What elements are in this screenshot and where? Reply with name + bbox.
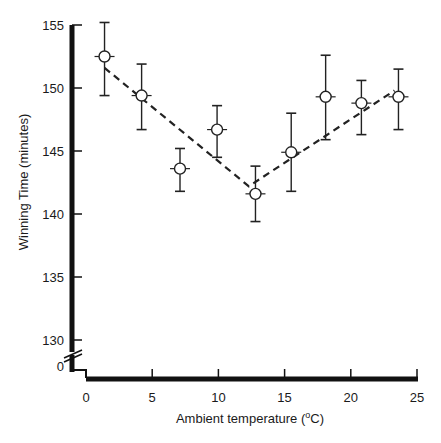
data-point	[170, 148, 190, 191]
x-tick-label: 0	[82, 390, 89, 405]
data-point	[388, 69, 408, 129]
chart: 130135140145150155 0 0510152025 Winning …	[0, 0, 441, 443]
y-tick-label: 130	[42, 333, 64, 348]
x-tick-label: 15	[277, 390, 291, 405]
data-point	[207, 106, 227, 158]
data-point	[95, 22, 115, 95]
data-point	[132, 64, 152, 130]
data-point	[316, 55, 336, 139]
trend-line	[105, 68, 395, 186]
y-tick-label: 155	[42, 18, 64, 33]
y-axis-title: Winning Time (minutes)	[16, 114, 31, 251]
x-tick-label: 20	[344, 390, 358, 405]
data-point	[245, 166, 265, 221]
y-tick-label: 145	[42, 144, 64, 159]
y-axis: 130135140145150155 0	[42, 18, 86, 378]
y-tick-label: 150	[42, 81, 64, 96]
y-zero-label: 0	[57, 359, 64, 374]
x-axis: 0510152025	[82, 369, 424, 405]
x-tick-label: 10	[211, 390, 225, 405]
x-tick-label: 25	[410, 390, 424, 405]
y-tick-label: 135	[42, 270, 64, 285]
x-tick-label: 5	[149, 390, 156, 405]
x-axis-title: Ambient temperature (oC)	[176, 410, 324, 426]
data-points	[95, 22, 409, 221]
y-tick-label: 140	[42, 207, 64, 222]
data-point	[281, 113, 301, 191]
